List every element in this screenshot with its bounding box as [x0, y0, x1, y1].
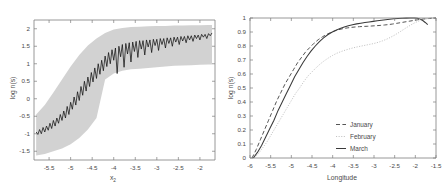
svg-text:-4: -4 [330, 162, 336, 169]
svg-text:-5.5: -5.5 [265, 162, 276, 169]
svg-text:-1.5: -1.5 [431, 162, 442, 169]
left-panel: -5.5-5-4.5-4-3.5-3-2.5-2 21.510.50-0.5-1… [0, 0, 224, 188]
svg-text:0.1: 0.1 [237, 140, 246, 147]
svg-text:-3.5: -3.5 [130, 164, 141, 171]
svg-text:0.6: 0.6 [237, 70, 246, 77]
right-x-ticks [250, 18, 436, 158]
legend-label-january: January [350, 121, 374, 129]
left-panel-svg: -5.5-5-4.5-4-3.5-3-2.5-2 21.510.50-0.5-1… [0, 0, 224, 188]
svg-text:-5.5: -5.5 [44, 164, 55, 171]
february-curve [254, 18, 436, 158]
left-y-ticklabels: 21.510.50-0.5-1-1.5 [19, 25, 30, 155]
right-axes [250, 18, 436, 158]
left-x-axis-label: x2 [110, 174, 116, 183]
right-x-axis-label: Longitude [327, 174, 357, 182]
svg-text:0.4: 0.4 [237, 98, 246, 105]
right-panel: -6-5.5-5-4.5-4-3.5-3-2.5-2-1.5 00.10.20.… [224, 0, 447, 188]
svg-text:1: 1 [243, 14, 247, 21]
svg-text:0: 0 [243, 154, 247, 161]
left-plot-area [36, 25, 212, 156]
right-x-ticklabels: -6-5.5-5-4.5-4-3.5-3-2.5-2-1.5 [247, 162, 442, 169]
svg-text:-5: -5 [68, 164, 74, 171]
svg-text:0.8: 0.8 [237, 42, 246, 49]
left-y-axis-label: log n(s) [9, 77, 17, 100]
svg-text:1: 1 [27, 60, 31, 67]
svg-text:-0.5: -0.5 [19, 112, 30, 119]
svg-text:0.7: 0.7 [237, 56, 246, 63]
svg-text:0.9: 0.9 [237, 28, 246, 35]
svg-text:0.5: 0.5 [237, 84, 246, 91]
svg-text:-1.5: -1.5 [19, 147, 30, 154]
svg-text:-2.5: -2.5 [173, 164, 184, 171]
svg-text:-6: -6 [247, 162, 253, 169]
figure-container: -5.5-5-4.5-4-3.5-3-2.5-2 21.510.50-0.5-1… [0, 0, 447, 188]
svg-text:-2.5: -2.5 [389, 162, 400, 169]
right-y-ticklabels: 00.10.20.30.40.50.60.70.80.91 [237, 14, 246, 161]
legend: January February March [336, 121, 376, 152]
svg-text:-3: -3 [154, 164, 160, 171]
legend-label-march: March [350, 145, 368, 152]
right-y-axis-label: log n(s) [227, 77, 235, 100]
svg-text:0: 0 [27, 95, 31, 102]
axis-frame [250, 18, 436, 158]
svg-text:0.2: 0.2 [237, 126, 246, 133]
svg-text:-2: -2 [413, 162, 419, 169]
svg-text:-3.5: -3.5 [348, 162, 359, 169]
march-curve [253, 18, 427, 158]
confidence-band [36, 25, 212, 156]
legend-label-february: February [350, 133, 376, 141]
svg-text:-2: -2 [197, 164, 203, 171]
svg-text:-3: -3 [371, 162, 377, 169]
svg-text:-1: -1 [24, 130, 30, 137]
svg-text:1.5: 1.5 [21, 42, 30, 49]
svg-text:-4: -4 [111, 164, 117, 171]
svg-text:-5: -5 [289, 162, 295, 169]
left-x-ticklabels: -5.5-5-4.5-4-3.5-3-2.5-2 [44, 164, 203, 171]
right-panel-svg: -6-5.5-5-4.5-4-3.5-3-2.5-2-1.5 00.10.20.… [224, 0, 447, 188]
svg-text:0.5: 0.5 [21, 77, 30, 84]
right-y-ticks [250, 18, 436, 158]
svg-text:2: 2 [27, 25, 31, 32]
svg-text:-4.5: -4.5 [87, 164, 98, 171]
svg-text:0.3: 0.3 [237, 112, 246, 119]
svg-text:-4.5: -4.5 [307, 162, 318, 169]
